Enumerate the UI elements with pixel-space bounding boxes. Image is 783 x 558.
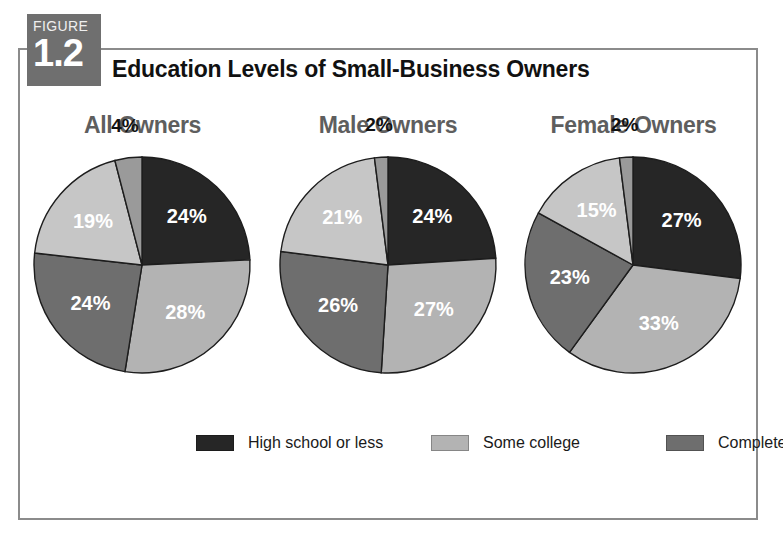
pie-slice-label: 24% (70, 292, 110, 314)
pie-slice-label: 19% (73, 210, 113, 232)
pie-chart-heading: All Owners (84, 112, 201, 139)
pie-slice-label: 15% (577, 199, 617, 221)
pie-slice-label: 27% (662, 209, 702, 231)
legend-item: Completed college (666, 430, 783, 456)
pie-canvas: 2%24%27%26%21% (266, 145, 511, 395)
chart-legend: High school or lessSome collegeCompleted… (196, 430, 716, 456)
legend-swatch (431, 435, 469, 451)
pie-slice-label: 27% (413, 298, 453, 320)
pie-slice-label: 4% (111, 115, 138, 137)
pie-slice-label: 23% (550, 266, 590, 288)
legend-item: High school or less (196, 430, 411, 456)
pie-slice-label: 28% (165, 301, 205, 323)
pie-chart-female-owners: Female Owners2%27%33%23%15% (511, 112, 756, 412)
pie-slice-label: 2% (611, 114, 638, 136)
pie-chart-male-owners: Male Owners2%24%27%26%21% (266, 112, 511, 412)
pie-slice-label: 26% (318, 294, 358, 316)
legend-label: Some college (483, 434, 580, 452)
figure-number-badge: FIGURE 1.2 (27, 14, 101, 86)
legend-label: Completed college (718, 434, 783, 452)
figure-badge-number: 1.2 (33, 32, 101, 74)
pie-chart-row: All Owners4%24%28%24%19%Male Owners2%24%… (20, 112, 756, 412)
pie-canvas: 4%24%28%24%19% (20, 145, 265, 395)
legend-item: Some college (431, 430, 646, 456)
pie-chart-all-owners: All Owners4%24%28%24%19% (20, 112, 265, 412)
pie-slice-label: 33% (639, 312, 679, 334)
figure-title: Education Levels of Small-Business Owner… (112, 56, 590, 83)
legend-label: High school or less (248, 434, 383, 452)
legend-swatch (666, 435, 704, 451)
legend-swatch (196, 435, 234, 451)
pie-slice-label: 24% (167, 205, 207, 227)
pie-slice-label: 24% (412, 205, 452, 227)
figure-root: FIGURE 1.2 Education Levels of Small-Bus… (0, 0, 783, 558)
pie-slice-label: 2% (365, 114, 392, 136)
pie-slice-label: 21% (322, 206, 362, 228)
pie-canvas: 2%27%33%23%15% (511, 145, 756, 395)
